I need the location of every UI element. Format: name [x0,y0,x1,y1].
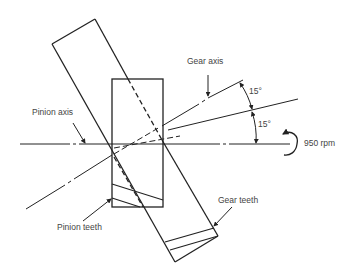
pinion-body [112,79,163,207]
gear-teeth-leader [214,207,232,226]
angle-arc-lower [252,112,256,143]
pinion-axis-leader [73,123,85,143]
pinion-teeth-leader [83,199,111,221]
speed-label: 950 rpm [304,138,335,148]
pinion-axis-label: Pinion axis [32,107,73,117]
pinion-teeth-label: Pinion teeth [57,222,102,232]
gear-teeth-label: Gear teeth [218,195,258,205]
gear-teeth [165,228,218,250]
gear-axis-label: Gear axis [187,56,223,66]
angle-lower-label: 15° [258,119,271,129]
gear-pinion-diagram [0,0,363,274]
angle-upper-label: 15° [249,86,262,96]
